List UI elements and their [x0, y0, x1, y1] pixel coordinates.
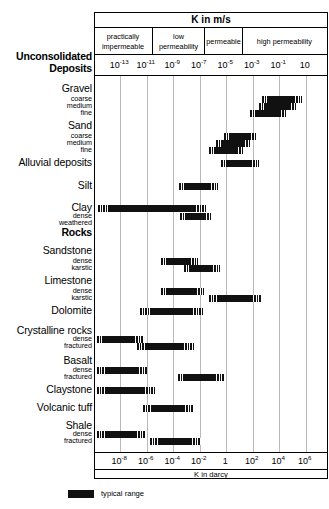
bar-fade-right [216, 374, 224, 381]
legend: typical range [68, 489, 144, 498]
range-bar [96, 336, 142, 343]
bar-fade-left [258, 103, 265, 110]
axis-tick: 106 [298, 456, 311, 466]
range-bar [208, 295, 262, 302]
bar-fade-left [177, 374, 185, 381]
row-label-limestone: Limestone [0, 275, 94, 286]
axis-bottom: 10-810-610-410-21102104106 [94, 452, 328, 470]
row-label-fine: fine [0, 146, 100, 153]
permeability-class-header: practically impermeablelow permeabilityp… [94, 28, 328, 55]
axis-tick: 10-11 [137, 60, 156, 70]
bar-fade-left [183, 265, 189, 272]
bar-fade-right [196, 205, 207, 212]
range-bar [249, 110, 287, 117]
permeability-chart: GravelcoarsemediumfineSandcoarsemediumfi… [0, 0, 329, 509]
row-label-basalt: Basalt [0, 355, 94, 366]
axis-tick: 104 [272, 456, 285, 466]
permeability-class-2: low permeability [152, 28, 204, 55]
row-label-rocks: Rocks [0, 227, 94, 238]
axis-tick: 10-3 [244, 60, 260, 70]
gridline [279, 76, 280, 452]
gridline [147, 76, 148, 452]
permeability-class-3: permeable [204, 28, 242, 55]
row-label-alluvial-deposits: Alluvial deposits [0, 157, 94, 168]
row-label-sandstone: Sandstone [0, 245, 94, 256]
bar-fade-right [192, 438, 201, 445]
row-label-fractured: fractured [0, 342, 100, 349]
bar-fade-left [249, 110, 255, 117]
range-bar [136, 343, 193, 350]
row-label-fractured: fractured [0, 437, 100, 444]
gridline [306, 76, 307, 452]
row-label-fine: fine [0, 109, 100, 116]
bar-fade-left [160, 288, 168, 295]
range-bar [215, 140, 251, 147]
range-bar [97, 205, 206, 212]
bar-fade-left [179, 213, 184, 220]
permeability-class-1: practically impermeable [94, 28, 152, 55]
row-label-gravel: Gravel [0, 83, 94, 94]
row-label-dolomite: Dolomite [0, 305, 94, 316]
bar-fade-right [281, 110, 287, 117]
axis-top: 10-1310-1110-910-710-510-310-110 [94, 55, 328, 76]
bar-fade-left [139, 308, 150, 315]
range-bar [160, 288, 204, 295]
axis-tick: 10-7 [191, 60, 207, 70]
bar-fade-right [185, 405, 194, 412]
range-bar [261, 96, 302, 103]
bar-fade-right [135, 336, 143, 343]
bar-fade-left [215, 140, 221, 147]
bar-fade-right [238, 147, 244, 154]
bar-fade-right [295, 96, 302, 103]
range-bar [178, 183, 217, 190]
row-label-sand: Sand [0, 120, 94, 131]
range-bar [223, 133, 256, 140]
bar-fade-right [206, 213, 211, 220]
bar-fade-right [251, 133, 257, 140]
bar-fade-right [213, 265, 219, 272]
bar-fade-left [223, 133, 229, 140]
bar-fade-left [160, 258, 167, 265]
bar-fade-left [261, 96, 268, 103]
range-bar [142, 405, 194, 412]
bar-fade-left [96, 336, 104, 343]
row-label-karstic: karstic [0, 294, 100, 301]
axis-tick: 10-4 [164, 456, 180, 466]
bar-fade-right [197, 288, 205, 295]
range-bar [160, 258, 198, 265]
range-bar [149, 438, 201, 445]
group-heading-unconsolidated: Unconsolidated Deposits [0, 51, 94, 75]
range-bar [96, 431, 145, 438]
bar-fade-right [137, 431, 145, 438]
axis-tick: 10-5 [217, 60, 233, 70]
range-bar [139, 308, 204, 315]
bar-fade-right [193, 308, 204, 315]
row-label-karstic: karstic [0, 264, 100, 271]
bar-fade-left [220, 160, 227, 167]
row-label-volcanic-tuff: Volcanic tuff [0, 402, 94, 413]
bar-fade-left [149, 438, 158, 445]
axis-tick: 10-9 [164, 60, 180, 70]
chart-title: K in m/s [94, 12, 328, 28]
range-bar [258, 103, 297, 110]
bar-fade-left [142, 405, 151, 412]
bar-fade-right [253, 295, 262, 302]
range-bar [96, 387, 155, 394]
bar-fade-right [291, 103, 298, 110]
gridline [120, 76, 121, 452]
bar-fade-left [136, 343, 146, 350]
axis-tick: 10-2 [191, 456, 207, 466]
axis-bottom-title: K in darcy [94, 470, 328, 479]
range-bar [183, 265, 220, 272]
range-bar [177, 374, 224, 381]
legend-swatch [68, 490, 94, 498]
bar-fade-left [96, 431, 104, 438]
row-label-silt: Silt [0, 180, 94, 191]
axis-tick: 1 [223, 456, 228, 466]
plot-area [95, 76, 327, 452]
bar-fade-right [191, 258, 198, 265]
range-bar [208, 147, 244, 154]
range-bar [220, 160, 259, 167]
bar-fade-left [96, 367, 105, 374]
bar-fade-right [245, 140, 251, 147]
